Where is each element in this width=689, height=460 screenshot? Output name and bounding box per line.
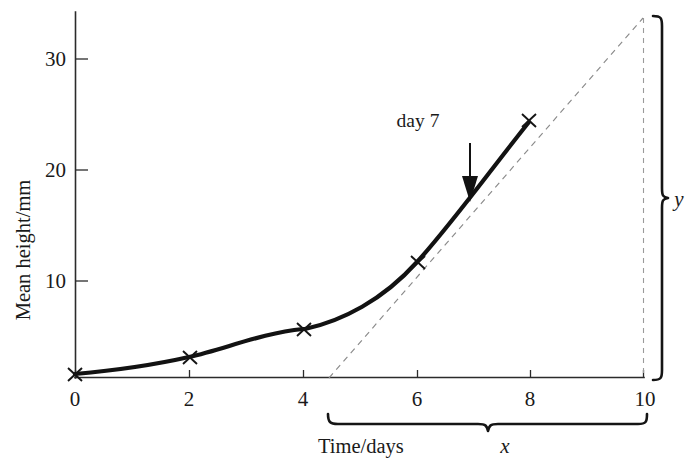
y-tick-label-10: 10 <box>45 269 66 293</box>
y-tick-group <box>76 59 88 281</box>
x-tick-label-10: 10 <box>635 387 656 411</box>
day-7-annotation: day 7 <box>397 110 478 202</box>
x-brace-group: Time/days x <box>318 414 647 458</box>
y-tick-label-20: 20 <box>45 158 66 182</box>
x-tick-label-6: 6 <box>412 387 423 411</box>
data-point-markers <box>68 114 536 381</box>
x-tick-labels: 0 2 4 6 8 10 <box>70 387 656 411</box>
x-tick-label-8: 8 <box>525 387 536 411</box>
x-variable-label: x <box>499 434 510 458</box>
y-brace <box>653 16 668 380</box>
y-variable-label: y <box>672 187 684 211</box>
y-axis-title: Mean height/mm <box>12 180 35 321</box>
axes-group <box>75 12 644 378</box>
x-tick-label-4: 4 <box>298 387 309 411</box>
y-brace-group: y <box>653 16 684 380</box>
chart-figure: 30 20 10 0 2 4 6 8 10 <box>0 0 689 460</box>
x-tick-label-0: 0 <box>70 387 81 411</box>
tangent-line <box>329 18 643 378</box>
growth-curve-path <box>75 122 529 374</box>
x-brace <box>328 414 647 431</box>
growth-curve-chart: 30 20 10 0 2 4 6 8 10 <box>0 0 689 460</box>
x-tick-label-2: 2 <box>184 387 195 411</box>
x-axis-title: Time/days <box>318 435 404 458</box>
y-tick-label-30: 30 <box>45 47 66 71</box>
day-7-label: day 7 <box>397 110 440 131</box>
y-tick-labels: 30 20 10 <box>45 47 66 293</box>
